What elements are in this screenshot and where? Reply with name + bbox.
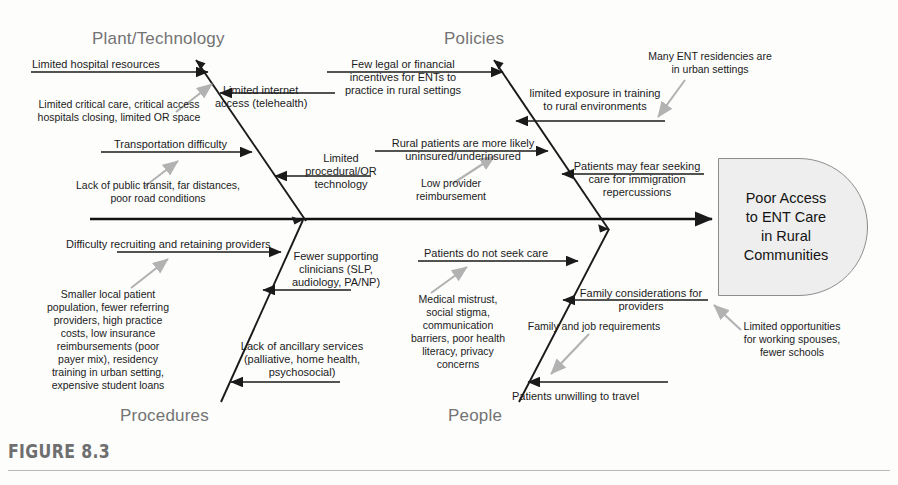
subcause-limited-critical-care-line1: Limited critical care, critical access <box>14 98 224 111</box>
subcause-medical-mistrust-line6: concerns <box>396 358 520 371</box>
subcause-smaller-local-patient-line6: payer mix), residency <box>22 353 194 366</box>
cause-few-legal-financial-line1: Few legal or financial <box>330 58 476 71</box>
cause-family-considerations-line1: Family considerations for <box>568 287 714 300</box>
cause-patients-fear-immigration-line2: care for immigration <box>562 173 712 186</box>
arrow-smaller-local-patient-population-sub <box>131 259 168 288</box>
effect-box: Poor Access to ENT Care in Rural Communi… <box>718 158 868 296</box>
cause-limited-internet-access-line1: Limited internet <box>223 84 298 97</box>
cause-patients-do-not-seek-care: Patients do not seek care <box>424 247 548 260</box>
subcause-family-job-requirements: Family and job requirements <box>500 320 688 333</box>
effect-line-4: Communities <box>744 246 829 265</box>
subcause-lack-public-transit-line2: poor road conditions <box>48 192 268 205</box>
cause-difficulty-recruiting-retaining: Difficulty recruiting and retaining prov… <box>66 238 271 251</box>
cause-few-legal-financial-line2: incentives for ENTs to <box>330 71 476 84</box>
effect-line-1: Poor Access <box>744 189 829 208</box>
category-label-people: People <box>448 406 502 426</box>
subcause-medical-mistrust-line4: barriers, poor health <box>396 332 520 345</box>
effect-line-2: to ENT Care <box>744 208 829 227</box>
category-label-procedures: Procedures <box>120 406 209 426</box>
subcause-limited-opportunities-line1: Limited opportunities <box>714 320 870 333</box>
cause-lack-ancillary-services-line3: psychosocial) <box>226 366 378 379</box>
subcause-smaller-local-patient-line2: population, fewer referring <box>22 301 194 314</box>
subcause-limited-critical-care-line2: hospitals closing, limited OR space <box>14 111 224 124</box>
cause-fewer-supporting-clinicians-line2: clinicians (SLP, <box>278 263 394 276</box>
subcause-medical-mistrust-line2: social stigma, <box>396 306 520 319</box>
cause-lack-ancillary-services-line1: Lack of ancillary services <box>226 340 378 353</box>
subcause-smaller-local-patient-line8: expensive student loans <box>22 379 194 392</box>
cause-limited-exposure-training-line1: limited exposure in training <box>513 87 677 100</box>
figure-caption-divider <box>8 470 890 471</box>
fishbone-diagram-canvas: Plant/Technology Policies Procedures Peo… <box>0 0 898 485</box>
arrow-family-job-requirements-sub <box>551 334 589 374</box>
subcause-limited-opportunities-line3: fewer schools <box>714 346 870 359</box>
subcause-many-ent-residencies-line2: in urban settings <box>628 63 792 76</box>
subcause-limited-opportunities-line2: for working spouses, <box>714 333 870 346</box>
cause-family-considerations-line2: providers <box>568 300 714 313</box>
cause-limited-procedural-or-line2: procedural/OR <box>296 165 386 178</box>
category-label-policies: Policies <box>444 29 504 49</box>
subcause-low-provider-reimbursement-line1: Low provider <box>396 177 506 190</box>
cause-rural-patients-uninsured-line2: uninsured/underinsured <box>375 150 551 163</box>
cause-lack-ancillary-services-line2: (palliative, home health, <box>226 353 378 366</box>
cause-limited-procedural-or-line1: Limited <box>296 152 386 165</box>
cause-patients-fear-immigration-line3: repercussions <box>562 186 712 199</box>
subcause-lack-public-transit-line1: Lack of public transit, far distances, <box>48 179 268 192</box>
cause-limited-procedural-or-line3: technology <box>296 178 386 191</box>
cause-fewer-supporting-clinicians-line3: audiology, PA/NP) <box>278 276 394 289</box>
cause-fewer-supporting-clinicians-line1: Fewer supporting <box>278 250 394 263</box>
cause-limited-internet-access-line2: access (telehealth) <box>215 97 307 110</box>
subcause-low-provider-reimbursement-line2: reimbursement <box>396 190 506 203</box>
cause-limited-hospital-resources: Limited hospital resources <box>32 58 160 71</box>
figure-number-label: FIGURE 8.3 <box>8 440 110 462</box>
cause-transportation-difficulty: Transportation difficulty <box>114 138 227 151</box>
cause-limited-exposure-training-line2: to rural environments <box>513 100 677 113</box>
subcause-smaller-local-patient-line3: providers, high practice <box>22 314 194 327</box>
category-label-plant-technology: Plant/Technology <box>92 29 225 49</box>
cause-patients-fear-immigration-line1: Patients may fear seeking <box>562 160 712 173</box>
effect-line-3: in Rural <box>744 227 829 246</box>
cause-patients-unwilling-to-travel: Patients unwilling to travel <box>512 390 639 403</box>
subcause-medical-mistrust-line1: Medical mistrust, <box>396 293 520 306</box>
subcause-medical-mistrust-line5: literacy, privacy <box>396 345 520 358</box>
subcause-smaller-local-patient-line7: training in urban setting, <box>22 366 194 379</box>
subcause-many-ent-residencies-line1: Many ENT residencies are <box>628 50 792 63</box>
arrow-medical-mistrust-sub <box>431 267 467 293</box>
subcause-smaller-local-patient-line4: costs, low insurance <box>22 327 194 340</box>
cause-rural-patients-uninsured-line1: Rural patients are more likely <box>375 137 551 150</box>
subcause-smaller-local-patient-line5: reimbursements (poor <box>22 340 194 353</box>
subcause-smaller-local-patient-line1: Smaller local patient <box>22 288 194 301</box>
cause-few-legal-financial-line3: practice in rural settings <box>330 84 476 97</box>
